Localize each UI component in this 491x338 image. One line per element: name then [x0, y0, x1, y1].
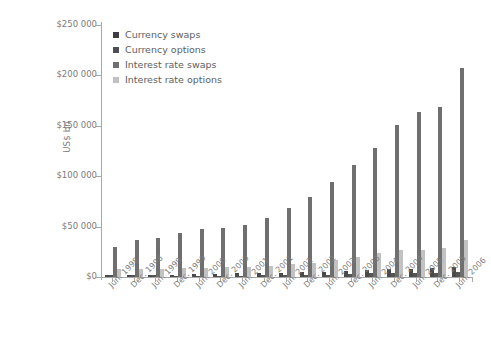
- y-tick-label: $150 000: [56, 120, 97, 130]
- legend-swatch-interest-rate-swaps: [113, 62, 119, 68]
- legend-label: Currency swaps: [125, 29, 200, 40]
- legend-label: Currency options: [125, 44, 206, 55]
- x-axis-tick: [472, 278, 473, 282]
- bar-group: [300, 25, 316, 277]
- chart-legend: Currency swaps Currency options Interest…: [113, 27, 222, 87]
- legend-label: Interest rate swaps: [125, 59, 216, 70]
- bar-group: [235, 25, 251, 277]
- legend-swatch-interest-rate-options: [113, 77, 119, 83]
- legend-swatch-currency-swaps: [113, 32, 119, 38]
- legend-item: Currency options: [113, 42, 222, 57]
- bar-group: [365, 25, 381, 277]
- bar-group: [430, 25, 446, 277]
- bar-group: [387, 25, 403, 277]
- y-tick-label: $250 000: [56, 19, 97, 29]
- y-tick-label: $0: [86, 271, 97, 281]
- bar-group: [279, 25, 295, 277]
- legend-label: Interest rate options: [125, 74, 222, 85]
- bar-group: [452, 25, 468, 277]
- y-axis-title: US$ bn: [62, 92, 72, 182]
- y-tick-label: $100 000: [56, 170, 97, 180]
- bar-group: [344, 25, 360, 277]
- legend-swatch-currency-options: [113, 47, 119, 53]
- legend-item: Interest rate swaps: [113, 57, 222, 72]
- bar-chart: US$ bn $0$50 000$100 000$150 000$200 000…: [0, 0, 491, 338]
- y-tick-label: $200 000: [56, 69, 97, 79]
- y-tick-label: $50 000: [62, 221, 97, 231]
- bar-group: [322, 25, 338, 277]
- bar-group: [409, 25, 425, 277]
- bar-group: [257, 25, 273, 277]
- legend-item: Currency swaps: [113, 27, 222, 42]
- legend-item: Interest rate options: [113, 72, 222, 87]
